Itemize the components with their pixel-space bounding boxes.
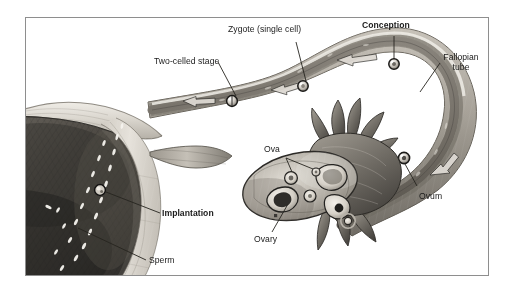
two-cell-embryo [227,96,238,107]
released-ovum [344,217,351,224]
label-conception: Conception [362,20,410,30]
implantation-site [95,185,106,196]
conception-cell [389,59,399,69]
ovary-speck [274,214,277,217]
label-fallopian-tube-line2: tube [432,62,490,72]
figure-page: Two-celled stage Zygote (single cell) Co… [0,0,514,292]
label-ova: Ova [264,144,280,154]
label-fallopian-tube-line1: Fallopian [432,52,490,62]
zygote-cell [298,81,308,91]
follicle-ovulating-core [335,204,344,213]
label-implantation: Implantation [162,208,214,218]
label-zygote: Zygote (single cell) [228,24,301,34]
label-ovary: Ovary [254,234,277,244]
label-sperm: Sperm [149,255,175,265]
label-ovum: Ovum [419,191,442,201]
label-two-celled-stage: Two-celled stage [154,56,219,66]
